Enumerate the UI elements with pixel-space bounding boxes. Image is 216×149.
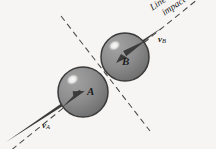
velocity-b-subscript: B	[162, 37, 166, 44]
sphere-b-label: B	[122, 56, 130, 67]
velocity-a-label: vA	[42, 121, 50, 131]
impact-diagram: Line of impact A B vA vB	[0, 0, 216, 149]
velocity-b-label: vB	[158, 35, 166, 45]
sphere-a-label: A	[87, 86, 95, 97]
diagram-canvas	[0, 0, 216, 149]
velocity-a-subscript: A	[46, 123, 50, 130]
